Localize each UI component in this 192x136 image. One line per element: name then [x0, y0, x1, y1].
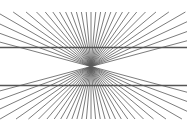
hering-illusion-figure — [0, 0, 192, 136]
